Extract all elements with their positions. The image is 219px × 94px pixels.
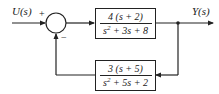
minus-sign: − — [61, 33, 67, 43]
forward-numerator: 4 (s + 2) — [106, 11, 145, 23]
forward-transfer-function-block: 4 (s + 2) s2 + 3s + 8 — [95, 8, 156, 39]
feedback-denominator: s2 + 5s + 2 — [103, 76, 148, 88]
input-label: U(s) — [12, 6, 32, 17]
output-label: Y(s) — [192, 6, 210, 17]
feedback-numerator: 3 (s + 5) — [106, 63, 145, 75]
plus-sign: + — [39, 9, 45, 19]
feedback-transfer-function-block: 3 (s + 5) s2 + 5s + 2 — [95, 60, 156, 91]
summing-junction — [46, 13, 66, 33]
forward-denominator: s2 + 3s + 8 — [103, 24, 148, 36]
